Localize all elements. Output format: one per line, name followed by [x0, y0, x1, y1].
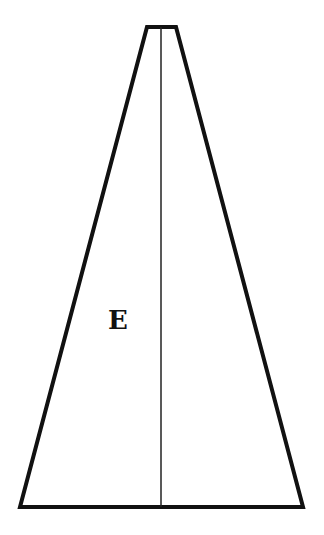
- diagram-canvas: [0, 0, 324, 535]
- region-label-e: E: [108, 307, 128, 333]
